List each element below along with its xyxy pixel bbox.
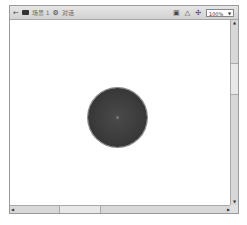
scroll-left-icon[interactable]: ◀ <box>11 208 14 212</box>
stage-canvas[interactable] <box>10 20 231 205</box>
breadcrumb-symbol[interactable]: 对话 <box>62 8 74 17</box>
zoom-dropdown[interactable]: 100% ▼ <box>206 9 234 17</box>
back-arrow-icon[interactable]: ← <box>13 9 19 17</box>
center-stage-icon[interactable]: ✣ <box>195 9 201 17</box>
scroll-corner <box>230 205 238 213</box>
edit-scene-icon[interactable]: ▣ <box>173 9 180 17</box>
edit-symbols-icon[interactable]: △ <box>185 9 190 17</box>
vertical-scrollbar[interactable]: ▲ ▼ <box>230 20 238 205</box>
zoom-value: 100% <box>209 11 223 17</box>
document-window: ← 场景 1 ⚙ 对话 ▣ △ ✣ 100% ▼ ▲ ▼ ◀ ▶ <box>9 5 239 214</box>
registration-point <box>116 116 119 119</box>
breadcrumb-scene[interactable]: 场景 1 <box>32 8 50 17</box>
scroll-up-icon[interactable]: ▲ <box>233 21 236 25</box>
circle-shape[interactable] <box>88 88 147 147</box>
horizontal-scroll-thumb[interactable] <box>59 206 101 213</box>
horizontal-scrollbar[interactable]: ◀ ▶ <box>10 205 231 213</box>
scene-icon <box>22 10 29 15</box>
vertical-scroll-thumb[interactable] <box>231 63 238 95</box>
edit-bar: ← 场景 1 ⚙ 对话 ▣ △ ✣ 100% ▼ <box>10 6 238 20</box>
symbol-icon: ⚙ <box>53 9 59 17</box>
chevron-down-icon: ▼ <box>228 10 231 18</box>
scroll-down-icon[interactable]: ▼ <box>233 200 236 204</box>
